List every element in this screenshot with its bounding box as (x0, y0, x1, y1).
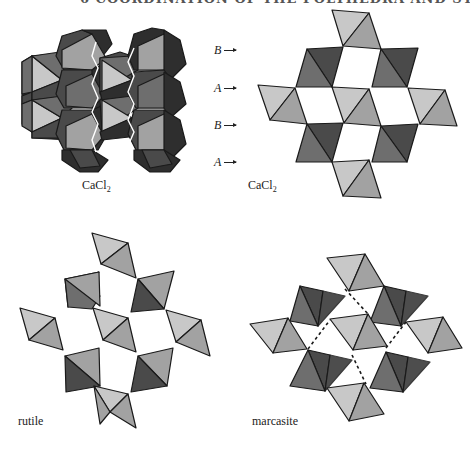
caption-marcasite: marcasite (252, 414, 298, 429)
layer-label-b-2: B (214, 118, 236, 133)
cacl2-perspective-diagram (22, 28, 186, 172)
caption-text: CaCl (248, 178, 273, 192)
rutile-diagram (20, 233, 210, 428)
caption-rutile: rutile (18, 414, 43, 429)
caption-cacl2-perspective: CaCl2 (82, 178, 111, 194)
figure-page: 6 COORDINATION OF THE POLYHEDRA AND STRU… (0, 0, 476, 450)
caption-subscript: 2 (107, 185, 111, 194)
caption-text: CaCl (82, 178, 107, 192)
layer-label-a-1: A (214, 81, 236, 96)
layer-letter: A (214, 155, 221, 170)
right-arrow-icon (224, 50, 236, 51)
layer-letter: B (214, 43, 221, 58)
caption-subscript: 2 (273, 185, 277, 194)
caption-cacl2-projection: CaCl2 (248, 178, 277, 194)
right-arrow-icon (224, 162, 236, 163)
layer-label-a-2: A (214, 155, 236, 170)
right-arrow-icon (224, 125, 236, 126)
marcasite-diagram (250, 254, 462, 421)
right-arrow-icon (224, 88, 236, 89)
layer-label-b-1: B (214, 43, 236, 58)
cacl2-projection-diagram (258, 10, 457, 198)
structures-drawing (0, 0, 476, 450)
layer-letter: A (214, 81, 221, 96)
layer-letter: B (214, 118, 221, 133)
